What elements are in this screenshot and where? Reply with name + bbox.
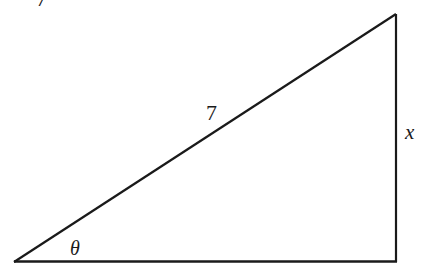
opposite-side-label: x	[404, 120, 415, 144]
hypotenuse-label: 7	[206, 100, 217, 125]
angle-label: θ	[70, 237, 80, 259]
cropped-label-fragment: 7	[36, 0, 47, 11]
hypotenuse-side	[14, 14, 396, 262]
right-triangle-diagram: 7 7 x θ	[0, 0, 422, 263]
